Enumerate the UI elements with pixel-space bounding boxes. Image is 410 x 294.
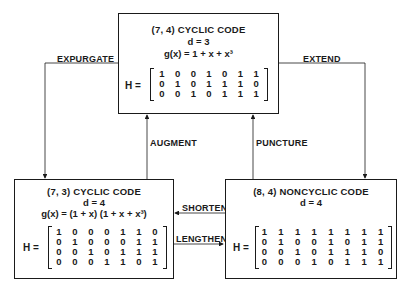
matrix-cell: 0 <box>273 257 290 267</box>
edge-label-expurgate: EXPURGATE <box>57 54 114 64</box>
matrix-cell: 1 <box>356 257 373 267</box>
node-title: (8, 4) NONCYCLIC CODE <box>226 186 396 197</box>
node-distance: d = 4 <box>15 197 173 208</box>
matrix-cell: 0 <box>131 257 147 267</box>
matrix-cell: 0 <box>83 257 99 267</box>
matrix-cell: 1 <box>248 89 264 99</box>
matrix-cell: 1 <box>115 257 131 267</box>
matrix-label: H = <box>233 242 249 253</box>
matrix-cell: 0 <box>170 89 186 99</box>
matrix-bracket-right <box>264 68 268 101</box>
parity-check-matrix: 11111111010010110010111000010111 <box>256 227 389 267</box>
node-distance: d = 4 <box>226 197 396 208</box>
matrix-label: H = <box>23 242 39 253</box>
node-generator: g(x) = (1 + x) (1 + x + x³) <box>15 208 173 219</box>
edge-label-extend: EXTEND <box>303 54 341 64</box>
node-title: (7, 3) CYCLIC CODE <box>15 186 173 197</box>
matrix-label: H = <box>125 80 141 91</box>
matrix-bracket-right <box>163 226 167 269</box>
matrix-cell: 1 <box>339 257 356 267</box>
matrix-cell: 0 <box>51 257 67 267</box>
parity-check-matrix: 100101101011100010111 <box>154 69 264 99</box>
matrix-cell: 0 <box>256 257 273 267</box>
parity-check-matrix: 1000110010001100101110001101 <box>51 227 163 267</box>
matrix-cell: 0 <box>67 257 83 267</box>
edge-label-lengthen: LENGTHEN <box>176 234 227 244</box>
matrix-cell: 0 <box>289 257 306 267</box>
matrix-cell: 0 <box>201 89 217 99</box>
matrix-cell: 1 <box>217 89 233 99</box>
node-7-4-cyclic-code: (7, 4) CYCLIC CODE d = 3 g(x) = 1 + x + … <box>118 13 279 114</box>
matrix-cell: 1 <box>185 89 201 99</box>
matrix-cell: 0 <box>154 89 170 99</box>
matrix-cell: 1 <box>372 257 389 267</box>
matrix-cell: 1 <box>147 257 163 267</box>
node-distance: d = 3 <box>119 36 278 47</box>
node-generator: g(x) = 1 + x + x³ <box>119 48 278 59</box>
edge-label-shorten: SHORTEN <box>182 203 227 213</box>
node-8-4-noncyclic-code: (8, 4) NONCYCLIC CODE d = 4 H = 11111111… <box>225 179 397 279</box>
node-7-3-cyclic-code: (7, 3) CYCLIC CODE d = 4 g(x) = (1 + x) … <box>14 179 174 279</box>
edge-label-augment: AUGMENT <box>150 138 197 148</box>
matrix-cell: 1 <box>306 257 323 267</box>
edge-label-puncture: PUNCTURE <box>256 138 308 148</box>
matrix-cell: 1 <box>233 89 249 99</box>
matrix-cell: 0 <box>323 257 340 267</box>
node-title: (7, 4) CYCLIC CODE <box>119 24 278 35</box>
matrix-cell: 1 <box>99 257 115 267</box>
